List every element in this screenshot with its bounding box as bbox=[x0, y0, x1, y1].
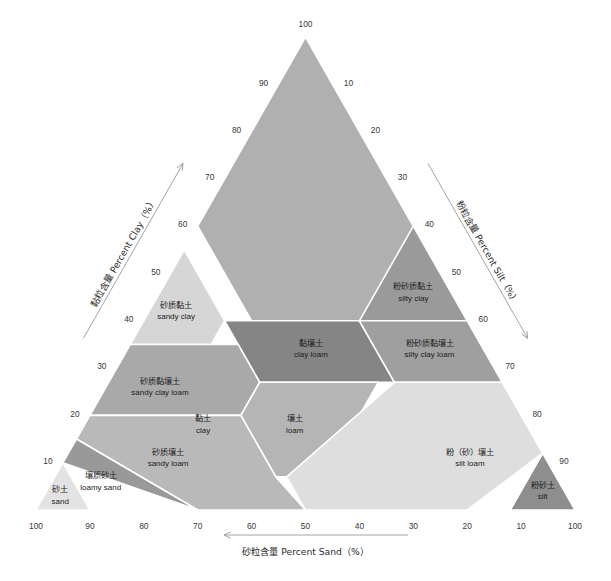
tick-silt-50: 50 bbox=[452, 267, 462, 277]
tick-silt-30: 30 bbox=[398, 172, 408, 182]
tick-silt-60: 60 bbox=[479, 314, 489, 324]
tick-clay-50: 50 bbox=[151, 267, 161, 277]
tick-sand-10: 100 bbox=[568, 521, 582, 531]
tick-silt-80: 80 bbox=[532, 409, 542, 419]
region-label-en-sandy-clay: sandy clay bbox=[157, 312, 195, 321]
tick-clay-30: 30 bbox=[97, 361, 107, 371]
axis-arrow-silt bbox=[522, 332, 528, 339]
tick-clay-60: 60 bbox=[178, 219, 188, 229]
region-label-cn-sandy-clay: 砂质黏土 bbox=[160, 300, 192, 310]
axis-title-clay: 黏粒含量 Percent Clay（%） bbox=[88, 196, 159, 308]
tick-sand-6: 40 bbox=[355, 521, 365, 531]
tick-silt-20: 20 bbox=[371, 125, 381, 135]
tick-sand-3: 70 bbox=[193, 521, 203, 531]
region-label-en-silty-clay: silty clay bbox=[398, 294, 428, 303]
region-sandy-clay[interactable] bbox=[130, 250, 224, 345]
axis-arrow-clay bbox=[177, 163, 183, 170]
region-label-cn-loam: 壤土 bbox=[287, 413, 303, 423]
region-label-en-clay-loam: clay loam bbox=[294, 350, 328, 359]
region-label-en-loam: loam bbox=[286, 426, 304, 435]
tick-sand-9: 10 bbox=[516, 521, 526, 531]
tick-silt-70: 70 bbox=[505, 361, 515, 371]
region-label-cn-sand: 砂土 bbox=[52, 484, 68, 494]
tick-sand-0: 100 bbox=[29, 521, 43, 531]
region-label-cn-loamy-sand: 壤质砂土 bbox=[85, 470, 117, 480]
tick-sand-5: 50 bbox=[301, 521, 311, 531]
region-label-cn-silty-clay-loam: 粉砂质黏壤土 bbox=[406, 338, 454, 348]
region-label-en-loamy-sand: loamy sand bbox=[80, 483, 121, 492]
region-label-en-silt: silt bbox=[538, 492, 549, 501]
tick-sand-2: 80 bbox=[139, 521, 149, 531]
tick-silt-10: 10 bbox=[344, 78, 354, 88]
tick-sand-1: 90 bbox=[85, 521, 95, 531]
region-label-en-silt-loam: silt loam bbox=[455, 459, 485, 468]
region-label-cn-sandy-loam: 砂质壤土 bbox=[152, 447, 184, 457]
tick-sand-4: 60 bbox=[247, 521, 257, 531]
region-label-cn-clay: 黏土 bbox=[195, 413, 211, 423]
axis-title-silt: 粉粒含量 Percent Silt（%） bbox=[454, 199, 522, 307]
tick-silt-40: 40 bbox=[425, 219, 435, 229]
tick-clay-80: 80 bbox=[232, 125, 242, 135]
region-label-cn-silt-loam: 粉（砂）壤土 bbox=[446, 447, 494, 457]
region-label-cn-clay-loam: 黏壤土 bbox=[299, 338, 323, 348]
region-label-cn-sandy-clay-loam: 砂质黏壤土 bbox=[140, 376, 180, 386]
region-label-en-sand: sand bbox=[52, 497, 69, 506]
axis-title-sand: 砂粒含量 Percent Sand（%） bbox=[242, 546, 368, 557]
tick-silt-90: 90 bbox=[559, 456, 569, 466]
region-label-en-clay: clay bbox=[196, 426, 210, 435]
tick-clay-10: 10 bbox=[43, 456, 53, 466]
region-label-en-sandy-loam: sandy loam bbox=[148, 459, 189, 468]
region-label-en-silty-clay-loam: silty clay loam bbox=[405, 350, 455, 359]
tick-clay-20: 20 bbox=[70, 409, 80, 419]
tick-clay-40: 40 bbox=[124, 314, 134, 324]
tick-clay-100: 100 bbox=[299, 19, 313, 29]
tick-clay-70: 70 bbox=[205, 172, 215, 182]
tick-sand-7: 30 bbox=[409, 521, 419, 531]
tick-sand-8: 20 bbox=[463, 521, 473, 531]
soil-texture-triangle: 1020304050607080901001020304050607080901… bbox=[0, 0, 611, 581]
region-label-cn-silty-clay: 粉砂质黏土 bbox=[393, 281, 433, 291]
region-label-cn-silt: 粉砂土 bbox=[531, 480, 555, 490]
region-label-en-sandy-clay-loam: sandy clay loam bbox=[131, 388, 189, 397]
tick-clay-90: 90 bbox=[259, 78, 269, 88]
